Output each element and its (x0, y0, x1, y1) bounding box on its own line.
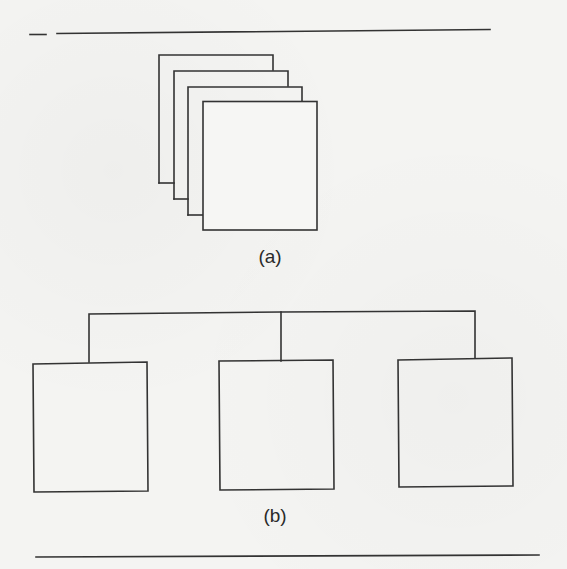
top-rule (30, 30, 490, 35)
tree-box-left (33, 362, 148, 492)
scanned-page: (a) (b) (0, 0, 567, 569)
tree-diagram (33, 311, 513, 492)
tree-box-middle (219, 360, 334, 490)
sheet-4-front (203, 102, 317, 231)
caption-b: (b) (263, 505, 286, 527)
figure-diagram (0, 0, 567, 569)
tree-box-right (398, 358, 513, 487)
bottom-rule (36, 555, 539, 557)
stacked-sheets (159, 55, 317, 230)
caption-a: (a) (258, 246, 281, 268)
tree-connector-bar (89, 311, 475, 362)
